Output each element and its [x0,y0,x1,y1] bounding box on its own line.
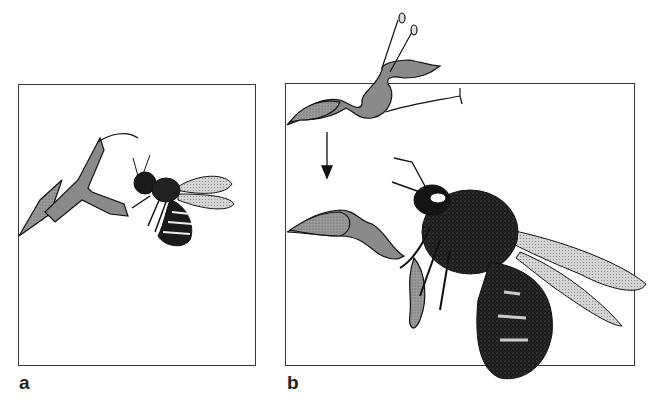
panel-label-a: a [19,372,30,394]
bee-a [132,155,234,246]
bee-b [392,158,646,379]
panel-label-b: b [287,372,299,394]
illustration [0,0,654,404]
flower-a [19,134,138,236]
flower-b-top [287,13,462,125]
flower-b-bottom [287,210,425,328]
down-arrow [322,132,332,178]
